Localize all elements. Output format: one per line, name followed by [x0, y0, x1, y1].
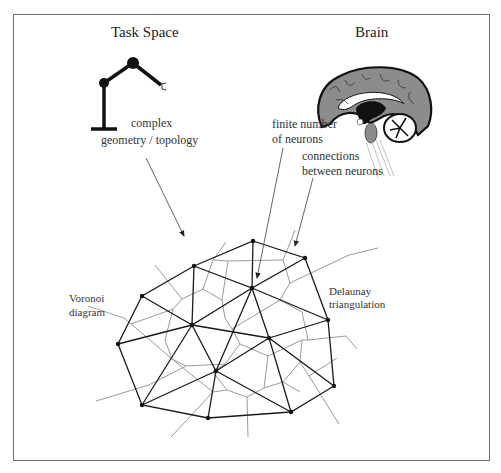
voronoi-label-line1: Voronoi: [69, 292, 104, 305]
delaunay-label-line2: triangulation: [329, 298, 385, 311]
arrow-icon: [88, 148, 313, 318]
task-space-title: Task Space: [111, 24, 179, 41]
complex-label-line1: complex: [131, 116, 172, 130]
finite-neurons-label-line1: finite number: [272, 117, 337, 131]
delaunay-triangulation: [118, 241, 334, 418]
complex-label-line2: geometry / topology: [101, 133, 198, 147]
connections-label-line1: connections: [302, 149, 359, 163]
connections-label-line2: between neurons: [302, 164, 383, 178]
diagram-canvas: [0, 0, 501, 473]
finite-neurons-label-line2: of neurons: [272, 132, 323, 146]
voronoi-label-line2: diagram: [69, 306, 105, 319]
brain-title: Brain: [355, 24, 388, 41]
voronoi-diagram: [96, 230, 378, 437]
delaunay-label-line1: Delaunay: [329, 285, 371, 298]
